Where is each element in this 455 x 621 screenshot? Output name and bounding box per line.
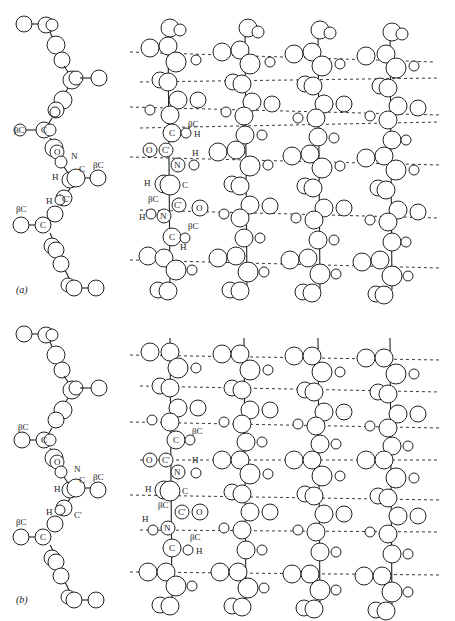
label-O: O — [54, 147, 61, 157]
svg-text:C: C — [169, 543, 175, 553]
label-betaC: βC — [16, 204, 27, 214]
label-betaC: βC — [14, 125, 25, 135]
label-C: C — [40, 220, 46, 230]
svg-text:H: H — [192, 455, 199, 465]
label-H: H — [46, 196, 53, 206]
svg-text:βC: βC — [190, 532, 201, 542]
strand-3 — [283, 338, 352, 618]
svg-text:N: N — [164, 523, 171, 533]
strand-1: C βC O C' N H H C βC C' O H N C βCH — [139, 338, 208, 615]
panel-b-side-view: βC C O N C βC H H C' C βC — [13, 326, 107, 608]
svg-text:N: N — [160, 211, 167, 221]
label-N: N — [74, 464, 81, 474]
label-betaC: βC — [93, 160, 104, 170]
label-C: C — [41, 125, 47, 135]
label-N: N — [71, 151, 78, 161]
label-H: H — [46, 507, 53, 517]
svg-text:βC: βC — [158, 500, 169, 510]
label-Cprime: C' — [74, 510, 82, 520]
svg-text:H: H — [144, 178, 151, 188]
svg-text:C: C — [173, 435, 179, 445]
label-C: C — [41, 435, 47, 445]
svg-text:C: C — [169, 128, 175, 138]
label-O: O — [54, 457, 61, 467]
strand-1: C βCH O C' N H H C βC C' O H N C βCH — [139, 19, 208, 300]
svg-text:O: O — [146, 455, 153, 465]
strand-3 — [281, 21, 352, 302]
svg-text:C': C' — [162, 145, 170, 155]
label-C: C — [79, 475, 85, 485]
svg-text:βC: βC — [188, 221, 199, 231]
svg-text:C: C — [169, 232, 175, 242]
svg-text:βC: βC — [148, 194, 159, 204]
panel-a-sheet-view: C βCH O C' N H H C βC C' O H N C βCH — [130, 19, 440, 304]
svg-text:C: C — [182, 486, 188, 496]
svg-text:H: H — [139, 212, 146, 222]
svg-text:C': C' — [162, 455, 170, 465]
svg-text:H: H — [180, 242, 187, 252]
svg-text:C': C' — [178, 507, 186, 517]
label-betaC: βC — [18, 422, 29, 432]
svg-text:H: H — [142, 514, 149, 524]
panel-a-side-view: βC C O N C βC H H C' C βC — [13, 16, 107, 296]
strand-4 — [355, 338, 426, 620]
svg-text:H: H — [192, 148, 199, 158]
svg-text:N: N — [174, 467, 181, 477]
label-C: C — [79, 164, 85, 174]
strand-2 — [211, 338, 278, 616]
strand-4 — [353, 23, 426, 304]
svg-text:H: H — [145, 484, 152, 494]
svg-text:H: H — [194, 129, 201, 139]
strand-2 — [209, 19, 280, 300]
panel-b-sheet-view: C βC O C' N H H C βC C' O H N C βCH — [130, 338, 440, 620]
panel-a-label: (a) — [16, 284, 28, 295]
svg-text:O: O — [196, 203, 203, 213]
svg-text:N: N — [174, 160, 181, 170]
label-C: C — [40, 532, 46, 542]
svg-text:βC: βC — [192, 426, 203, 436]
svg-text:H: H — [196, 546, 203, 556]
svg-text:O: O — [146, 145, 153, 155]
svg-text:βC: βC — [188, 119, 199, 129]
label-betaC: βC — [93, 472, 104, 482]
svg-text:O: O — [196, 507, 203, 517]
panel-b-label: (b) — [16, 594, 28, 605]
svg-text:C: C — [182, 180, 188, 190]
label-H: H — [54, 484, 61, 494]
svg-text:C': C' — [174, 200, 182, 210]
beta-sheet-diagram: βC C O N C βC H H C' C βC — [0, 0, 455, 621]
label-Cprime: C' — [62, 194, 70, 204]
label-betaC: βC — [16, 517, 27, 527]
label-H: H — [52, 172, 59, 182]
